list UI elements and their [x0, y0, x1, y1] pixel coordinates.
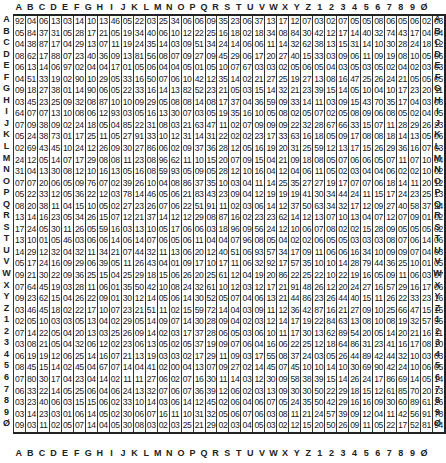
matrix-cell: 16 [373, 282, 385, 294]
matrix-cell: 21 [193, 420, 205, 433]
matrix-cell: 50 [313, 397, 325, 409]
matrix-cell: 10 [145, 178, 157, 190]
matrix-cell: 32 [277, 85, 289, 97]
matrix-cell: 09 [14, 293, 26, 305]
matrix-cell: 26 [349, 374, 361, 386]
matrix-cell: 13 [133, 386, 145, 398]
matrix-cell: 47 [408, 305, 420, 317]
matrix-cell: 34 [97, 247, 109, 259]
matrix-cell: 02 [337, 224, 349, 236]
matrix-cell: 07 [181, 386, 193, 398]
matrix-cell: 41 [385, 339, 397, 351]
matrix-cell: 07 [157, 201, 169, 213]
matrix-cell: 13 [121, 51, 133, 63]
matrix-cell: 18 [49, 305, 61, 317]
matrix-cell: 05 [97, 120, 109, 132]
matrix-cell: 36 [97, 51, 109, 63]
matrix-cell: 03 [121, 108, 133, 120]
matrix-cell: 02 [61, 305, 73, 317]
matrix-cell: 02 [408, 166, 420, 178]
matrix-cell: 08 [61, 166, 73, 178]
row-label: R [1, 210, 12, 222]
table-row: 0524387301172511052791331012311431220202… [14, 131, 446, 143]
matrix-cell: 13 [313, 212, 325, 224]
matrix-cell: 10 [373, 316, 385, 328]
matrix-cell: 61 [205, 282, 217, 294]
matrix-cell: 17 [253, 351, 265, 363]
matrix-cell: 03 [229, 178, 241, 190]
matrix-cell: 64 [337, 339, 349, 351]
matrix-cell: 26 [420, 120, 432, 132]
matrix-cell: 11 [217, 201, 229, 213]
matrix-cell: 02 [349, 224, 361, 236]
matrix-cell: 04 [241, 293, 253, 305]
matrix-cell: 36 [253, 97, 265, 109]
matrix-cell: 10 [253, 108, 265, 120]
matrix-cell: 17 [217, 97, 229, 109]
matrix-cell: 09 [217, 339, 229, 351]
matrix-cell: 14 [277, 39, 289, 51]
table-row: 0451331902901029053316500706104212351402… [14, 74, 446, 86]
table-row: 0903110205071404053008030203252129020304… [14, 420, 446, 433]
matrix-cell: 19 [265, 189, 277, 201]
matrix-cell: 17 [277, 15, 289, 28]
matrix-cell: 25 [277, 74, 289, 86]
matrix-cell: 29 [193, 212, 205, 224]
matrix-cell: 08 [14, 51, 26, 63]
matrix-cell: 87 [217, 212, 229, 224]
matrix-cell: 30 [121, 143, 133, 155]
matrix-cell: 29 [121, 316, 133, 328]
matrix-cell: 70 [408, 386, 420, 398]
matrix-cell: 45 [217, 51, 229, 63]
matrix-cell: 04 [408, 97, 420, 109]
matrix-cell: 08 [169, 282, 181, 294]
matrix-cell: 30 [301, 386, 313, 398]
matrix-cell: 36 [385, 258, 397, 270]
matrix-cell: 33 [313, 51, 325, 63]
matrix-cell: 52 [408, 420, 420, 433]
matrix-cell: 26 [133, 258, 145, 270]
matrix-cell: 35 [229, 108, 241, 120]
matrix-cell: 07 [241, 409, 253, 421]
matrix-cell: 05 [229, 328, 241, 340]
matrix-cell: 62 [277, 212, 289, 224]
matrix-cell: 33 [289, 97, 301, 109]
column-label: V [256, 2, 268, 12]
matrix-cell: 12 [169, 131, 181, 143]
matrix-cell: 15 [325, 374, 337, 386]
matrix-cell: 11 [277, 328, 289, 340]
matrix-cell: 03 [61, 282, 73, 294]
matrix-cell: 05 [37, 155, 49, 167]
matrix-cell: 07 [61, 155, 73, 167]
matrix-cell: 29 [205, 420, 217, 433]
matrix-cell: 15 [97, 212, 109, 224]
matrix-cell: 28 [373, 224, 385, 236]
table-row: 1314162305342615071221371412122908871602… [14, 212, 446, 224]
matrix-cell: 03 [61, 15, 73, 28]
column-label: D [48, 448, 60, 458]
row-label: B [432, 26, 443, 38]
matrix-cell: 46 [145, 189, 157, 201]
matrix-cell: 09 [217, 362, 229, 374]
matrix-cell: 13 [157, 108, 169, 120]
table-row: 0862178807234036091381560807092709452906… [14, 51, 446, 63]
matrix-cell: 06 [408, 270, 420, 282]
matrix-cell: 63 [313, 201, 325, 213]
matrix-cell: 44 [349, 351, 361, 363]
matrix-cell: 18 [349, 386, 361, 398]
matrix-cell: 04 [241, 97, 253, 109]
matrix-cell: 06 [241, 339, 253, 351]
matrix-cell: 09 [109, 51, 121, 63]
matrix-cell: 44 [337, 189, 349, 201]
row-label: E [432, 60, 443, 72]
matrix-cell: 17 [397, 97, 409, 109]
column-label: V [256, 448, 268, 458]
matrix-cell: 21 [121, 351, 133, 363]
matrix-cell: 08 [181, 97, 193, 109]
column-label: 6 [372, 448, 384, 458]
row-label: J [1, 118, 12, 130]
matrix-cell: 05 [73, 316, 85, 328]
matrix-cell: 04 [109, 120, 121, 132]
table-row: 0845151402450467071404410200041307092702… [14, 362, 446, 374]
matrix-cell: 15 [253, 155, 265, 167]
